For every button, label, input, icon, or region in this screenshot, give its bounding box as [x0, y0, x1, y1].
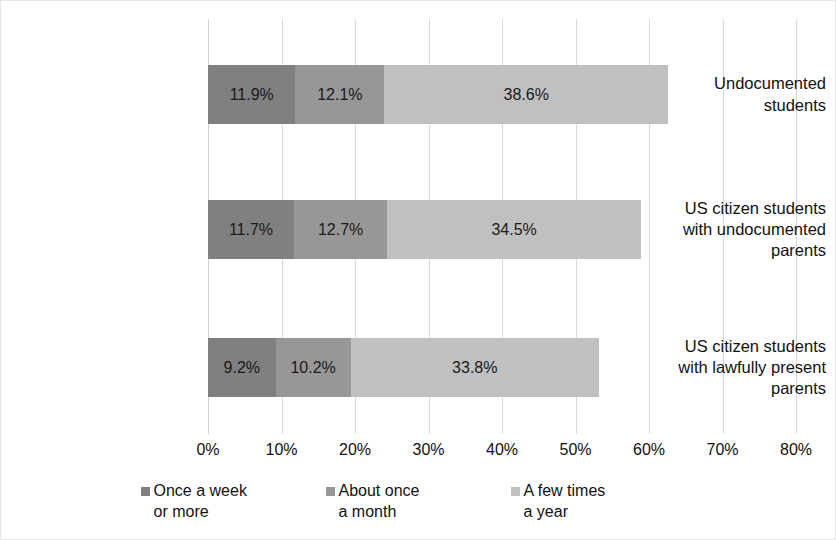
bar-segment: 12.1% — [295, 65, 384, 124]
legend-item[interactable]: About once a month — [326, 481, 511, 523]
bar-segment-label: 11.7% — [229, 222, 273, 238]
x-axis: 0%10%20%30%40%50%60%70%80% — [208, 437, 796, 465]
bar-segment: 33.8% — [351, 338, 599, 397]
bar-group: 11.7%12.7%34.5% — [208, 200, 641, 259]
bar-segment-label: 12.7% — [318, 222, 363, 238]
legend-label: Once a week or more — [154, 481, 247, 523]
bar-segment-label: 10.2% — [290, 360, 335, 376]
x-tick-label: 60% — [633, 441, 665, 459]
category-label: US citizen students with undocumented pa… — [645, 198, 835, 261]
bar-group: 11.9%12.1%38.6% — [208, 65, 668, 124]
bar-group: 9.2%10.2%33.8% — [208, 338, 599, 397]
bar-segment-label: 9.2% — [224, 360, 260, 376]
bar-segment: 34.5% — [387, 200, 641, 259]
bar-segment: 12.7% — [294, 200, 387, 259]
bar-segment-label: 11.9% — [230, 87, 274, 103]
x-tick-label: 80% — [780, 441, 812, 459]
legend-swatch-icon — [511, 487, 520, 496]
legend-item[interactable]: Once a week or more — [141, 481, 326, 523]
bar-segment: 11.7% — [208, 200, 294, 259]
legend-item[interactable]: A few times a year — [511, 481, 696, 523]
category-label: Undocumented students — [645, 73, 835, 115]
bar-segment-label: 12.1% — [317, 87, 362, 103]
x-tick-label: 10% — [265, 441, 297, 459]
category-label: US citizen students with lawfully presen… — [645, 336, 835, 399]
bar-segment-label: 34.5% — [491, 222, 536, 238]
x-tick-label: 30% — [412, 441, 444, 459]
bar-segment: 38.6% — [384, 65, 668, 124]
bar-segment-label: 33.8% — [452, 360, 497, 376]
bar-segment: 9.2% — [208, 338, 276, 397]
x-tick-label: 0% — [196, 441, 219, 459]
bar-segment-label: 38.6% — [504, 87, 549, 103]
stacked-bar-chart: 11.9%12.1%38.6%11.7%12.7%34.5%9.2%10.2%3… — [0, 0, 836, 540]
chart-legend: Once a week or moreAbout once a monthA f… — [1, 481, 835, 523]
x-tick-label: 70% — [706, 441, 738, 459]
x-tick-label: 50% — [559, 441, 591, 459]
legend-swatch-icon — [326, 487, 335, 496]
legend-label: About once a month — [339, 481, 420, 523]
legend-swatch-icon — [141, 487, 150, 496]
bar-segment: 10.2% — [276, 338, 351, 397]
bar-segment: 11.9% — [208, 65, 295, 124]
legend-label: A few times a year — [524, 481, 606, 523]
x-tick-label: 20% — [339, 441, 371, 459]
x-tick-label: 40% — [486, 441, 518, 459]
